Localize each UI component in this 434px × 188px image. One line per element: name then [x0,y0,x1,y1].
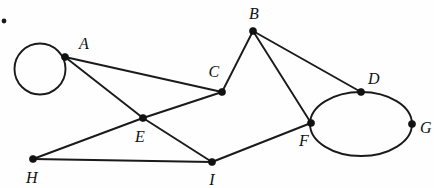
vertex-D [357,88,364,95]
edge-B-F [253,31,311,123]
vertex-C [218,88,225,95]
vertex-label-C: C [209,64,220,80]
edge-I-F [212,123,311,162]
vertex-label-I: I [209,172,215,188]
vertex-I [208,158,215,165]
edge-E-I [143,118,212,162]
vertex-B [249,27,256,34]
graph-figure: ABCDEFGHI [0,0,434,188]
oval-F-D-G [310,92,412,156]
scan-artifacts [2,19,7,24]
vertex-label-E: E [135,129,145,145]
edge-H-I [33,159,212,162]
graph-canvas [0,0,434,188]
vertex-label-D: D [368,71,380,87]
edge-H-E [33,118,143,159]
vertex-A [61,53,68,60]
edge-E-C [143,92,222,118]
vertex-label-H: H [26,170,38,186]
vertex-G [408,120,415,127]
edge-B-C [222,31,253,92]
scan-speck [2,19,7,24]
loop-edge-A [15,44,66,95]
loop-edges [15,44,66,95]
vertex-F [307,119,314,126]
vertex-label-A: A [79,36,89,52]
vertex-H [29,155,36,162]
vertex-label-B: B [249,6,259,22]
vertex-E [139,114,146,121]
vertex-label-G: G [420,120,432,136]
cycle-edges [310,92,412,156]
edge-B-D [253,31,361,92]
vertex-label-F: F [299,133,309,149]
